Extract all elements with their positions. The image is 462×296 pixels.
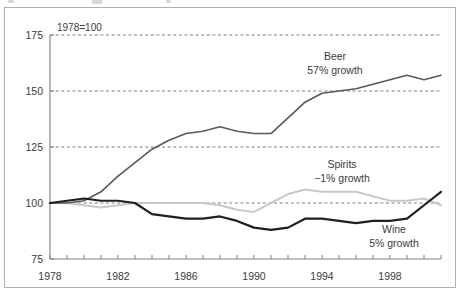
x-axis-ticks — [50, 255, 441, 259]
x-tick-label-1998: 1998 — [378, 270, 402, 282]
y-tick-label-150: 150 — [25, 85, 43, 97]
x-tick-label-1982: 1982 — [106, 270, 130, 282]
x-tick-label-1994: 1994 — [310, 270, 334, 282]
series-label-spirits: Spirits — [327, 158, 356, 170]
y-axis-ticks — [50, 35, 54, 259]
y-tick-label-100: 100 — [25, 197, 43, 209]
series-label-beer: Beer — [324, 50, 347, 62]
x-tick-label-1986: 1986 — [174, 270, 198, 282]
x-tick-label-1990: 1990 — [242, 270, 266, 282]
series-growth-beer: 57% growth — [307, 64, 363, 76]
gridlines — [50, 35, 441, 203]
base-index-note: 1978=100 — [57, 22, 102, 33]
series-growth-wine: 5% growth — [369, 237, 419, 249]
series-line-beer — [50, 75, 441, 203]
x-tick-label-1978: 1978 — [38, 270, 62, 282]
cropped-text-remnant — [0, 0, 462, 6]
y-tick-label-175: 175 — [25, 29, 43, 41]
line-chart-plot: 175 150 125 100 75 1978 1982 1986 1990 1… — [5, 8, 455, 287]
y-tick-label-125: 125 — [25, 141, 43, 153]
chart-frame: 175 150 125 100 75 1978 1982 1986 1990 1… — [4, 7, 456, 288]
series-growth-spirits: −1% growth — [314, 172, 370, 184]
series-label-wine: Wine — [382, 223, 406, 235]
chart-figure: 175 150 125 100 75 1978 1982 1986 1990 1… — [0, 0, 462, 296]
y-tick-label-75: 75 — [31, 253, 43, 265]
